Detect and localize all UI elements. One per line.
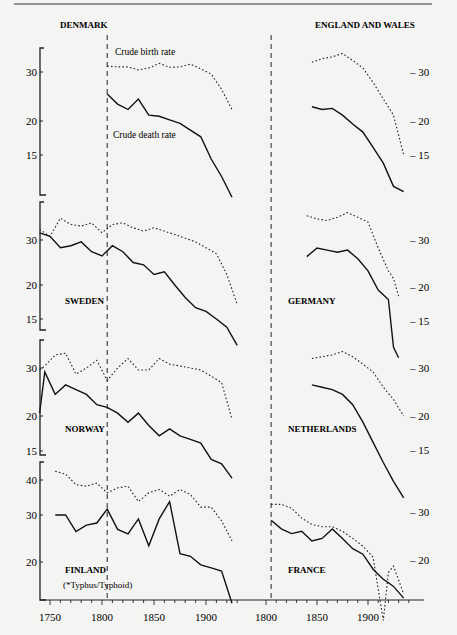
y-tick-label: 15 [26,149,38,161]
panel-france: FRANCE [271,504,404,620]
y-tick-label: 15 [26,313,38,325]
left-y-axis [40,202,46,330]
demographic-transition-chart: DENMARKENGLAND AND WALESSWEDENGERMANYNOR… [0,0,457,635]
right-y-tick-label: – 20 [409,115,430,127]
y-tick-label: 20 [26,115,38,127]
right-y-tick-label: – 30 [409,506,430,518]
right-y-tick-label: – 20 [409,410,430,422]
birth-rate-line [40,218,238,304]
y-tick-label: 40 [26,474,38,486]
right-y-tick-label: – 15 [409,444,430,456]
right-y-tick-label: – 15 [409,315,430,327]
right-y-tick-label: – 20 [409,281,430,293]
panel-germany: GERMANY [288,213,399,358]
country-label: NETHERLANDS [288,424,357,434]
right-y-tick-label: – 15 [409,149,430,161]
country-label: GERMANY [288,296,336,306]
birth-rate-line [312,352,404,417]
y-tick-label: 20 [26,556,38,568]
x-tick-label: 1750 [39,611,62,623]
y-tick-label: 15 [26,445,38,457]
x-tick-label: 1900 [195,611,218,623]
panel-finland: FINLAND(*Typhus/Typhoid) [55,471,232,603]
birth-rate-line [312,53,404,155]
birth-rate-line [271,504,404,620]
panel-england-and-wales: ENGLAND AND WALES [312,20,415,192]
country-label: ENGLAND AND WALES [315,20,415,30]
panels: DENMARKENGLAND AND WALESSWEDENGERMANYNOR… [40,20,415,621]
x-tick-label: 1800 [91,611,114,623]
left-y-axis [40,462,46,600]
y-tick-label: 20 [26,410,38,422]
x-tick-label: 1850 [143,611,166,623]
x-tick-label: 1900 [357,611,380,623]
birth-rate-label: Crude birth rate [115,47,175,57]
death-rate-line [312,107,404,192]
y-tick-label: 30 [26,234,38,246]
y-tick-label: 30 [26,362,38,374]
death-rate-line [271,520,404,598]
death-rate-line [312,385,404,498]
x-tick-label: 1850 [306,611,329,623]
panel-netherlands: NETHERLANDS [288,352,404,498]
x-tick-label: 1800 [255,611,278,623]
death-rate-label: Crude death rate [113,130,176,140]
panel-sweden: SWEDEN [40,218,238,345]
country-label: DENMARK [60,20,108,30]
right-y-tick-label: – 30 [409,362,430,374]
country-label: FINLAND [65,565,107,575]
country-label: NORWAY [65,424,105,434]
panel-norway: NORWAY [40,353,232,478]
right-y-tick-label: – 20 [409,554,430,566]
right-y-tick-label: – 30 [409,234,430,246]
country-label: SWEDEN [65,296,105,306]
finland-note: (*Typhus/Typhoid) [63,580,132,590]
y-tick-label: 20 [26,279,38,291]
y-tick-label: 30 [26,66,38,78]
death-rate-line [107,94,232,197]
right-y-tick-label: – 30 [409,66,430,78]
country-label: FRANCE [288,565,326,575]
y-tick-label: 30 [26,509,38,521]
birth-rate-line [107,63,232,109]
death-rate-line [40,233,238,346]
